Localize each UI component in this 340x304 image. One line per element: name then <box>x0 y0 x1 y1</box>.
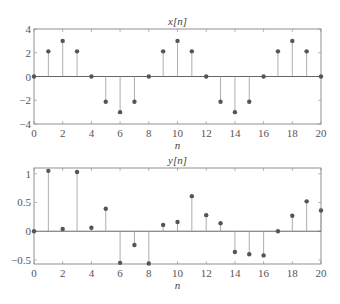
x-tick-label: 2 <box>60 267 66 279</box>
x-tick-label: 4 <box>89 267 95 279</box>
data-point <box>218 99 222 103</box>
data-point <box>118 110 122 114</box>
x-tick-label: 18 <box>287 127 299 139</box>
x-axis-label: n <box>175 139 181 151</box>
plot-y-n: y[n]02468101214161820−0.500.51n <box>11 154 327 291</box>
x-tick-label: 12 <box>201 267 212 279</box>
data-point <box>204 213 208 217</box>
data-point <box>32 229 36 233</box>
data-point <box>261 253 265 257</box>
x-tick-label: 16 <box>258 267 270 279</box>
y-tick-label: −4 <box>19 118 31 130</box>
data-point <box>175 220 179 224</box>
data-point <box>304 199 308 203</box>
data-point <box>89 226 93 230</box>
data-point <box>75 170 79 174</box>
data-point <box>290 39 294 43</box>
data-point <box>147 74 151 78</box>
x-tick-label: 20 <box>316 127 328 139</box>
data-point <box>190 49 194 53</box>
x-tick-label: 12 <box>201 127 212 139</box>
data-point <box>290 214 294 218</box>
y-tick-label: 4 <box>26 23 32 35</box>
data-point <box>247 252 251 256</box>
data-point <box>304 49 308 53</box>
data-point <box>61 227 65 231</box>
data-point <box>204 74 208 78</box>
data-point <box>46 49 50 53</box>
data-point <box>218 221 222 225</box>
data-point <box>132 243 136 247</box>
x-tick-label: 18 <box>287 267 299 279</box>
data-point <box>89 74 93 78</box>
data-point <box>175 39 179 43</box>
data-point <box>161 223 165 227</box>
data-point <box>104 207 108 211</box>
y-tick-label: −0.5 <box>11 254 31 266</box>
data-point <box>233 110 237 114</box>
x-axis-label: n <box>175 279 181 291</box>
plot-x-n: x[n]02468101214161820−4−2024n <box>19 15 327 151</box>
data-point <box>118 261 122 265</box>
x-tick-label: 0 <box>31 267 37 279</box>
data-point <box>132 99 136 103</box>
data-point <box>319 74 323 78</box>
y-tick-label: 0 <box>26 71 32 83</box>
data-point <box>75 49 79 53</box>
x-tick-label: 14 <box>229 127 241 139</box>
x-tick-label: 20 <box>316 267 328 279</box>
y-tick-label: −2 <box>19 94 31 106</box>
x-tick-label: 0 <box>31 127 37 139</box>
x-tick-label: 8 <box>146 267 152 279</box>
data-point <box>61 39 65 43</box>
data-point <box>319 208 323 212</box>
x-tick-label: 14 <box>229 267 241 279</box>
data-point <box>147 261 151 265</box>
y-tick-label: 2 <box>26 47 32 59</box>
data-point <box>46 169 50 173</box>
data-point <box>276 49 280 53</box>
x-tick-label: 16 <box>258 127 270 139</box>
x-tick-label: 6 <box>117 127 123 139</box>
data-point <box>261 74 265 78</box>
x-tick-label: 6 <box>117 267 123 279</box>
data-point <box>32 74 36 78</box>
y-tick-label: 0 <box>26 225 32 237</box>
plot-title: y[n] <box>167 154 187 166</box>
y-tick-label: 1 <box>26 168 32 180</box>
data-point <box>161 49 165 53</box>
plot-title: x[n] <box>167 15 187 27</box>
data-point <box>247 99 251 103</box>
data-point <box>104 99 108 103</box>
x-tick-label: 8 <box>146 127 152 139</box>
x-tick-label: 10 <box>172 267 184 279</box>
y-tick-label: 0.5 <box>17 196 31 208</box>
data-point <box>276 229 280 233</box>
x-tick-label: 10 <box>172 127 184 139</box>
x-tick-label: 4 <box>89 127 95 139</box>
x-tick-label: 2 <box>60 127 66 139</box>
figure: x[n]02468101214161820−4−2024n y[n]024681… <box>0 0 340 304</box>
data-point <box>190 194 194 198</box>
data-point <box>233 250 237 254</box>
